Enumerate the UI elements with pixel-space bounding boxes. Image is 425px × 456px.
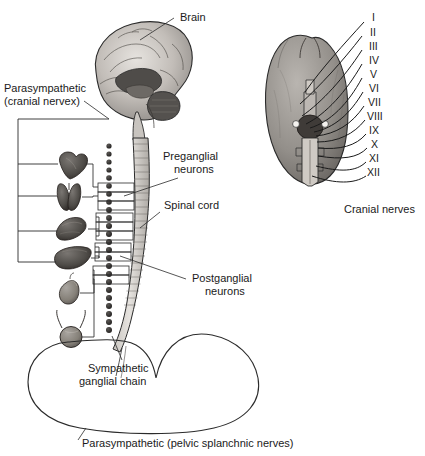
label-cranial-nerves-caption: Cranial nerves [344,203,415,216]
label-parasympathetic-pelvic: Parasympathetic (pelvic splanchnic nerve… [82,437,294,450]
label-sympathetic-chain-line1: Sympathetic [88,362,149,375]
organ-kidney [59,273,79,304]
organ-stomach [56,217,86,240]
label-parasympathetic-cranial-line1: Parasympathetic [4,82,86,95]
label-spinal-cord: Spinal cord [164,199,219,212]
organ-liver [55,247,92,269]
organ-lungs [57,183,81,210]
sagittal-brain-illustration [95,22,192,140]
cranial-numeral-2: II [370,27,376,38]
cranial-numeral-1: I [372,12,375,23]
cranial-numeral-8: VIII [367,111,383,122]
cranial-numeral-12: XII [367,167,380,178]
label-preganglial-line1: Preganglial [163,150,218,163]
label-postganglial-line2: neurons [205,285,245,298]
label-parasympathetic-cranial-line2: (cranial nervex) [4,95,80,108]
cranial-numeral-5: V [370,69,377,80]
label-sympathetic-chain-line2: ganglial chain [79,375,146,388]
label-preganglial-line2: neurons [174,163,214,176]
cranial-numeral-11: XI [369,153,379,164]
label-postganglial-line1: Postganglial [192,272,252,285]
ventral-brain-illustration [266,35,349,186]
organ-heart [59,152,87,179]
diagram-canvas [0,0,425,456]
cranial-numeral-7: VII [368,97,381,108]
label-brain: Brain [180,11,206,24]
cranial-numeral-6: VI [369,83,379,94]
sympathetic-ganglial-chain [106,143,112,333]
anatomy-figure: Brain Parasympathetic (cranial nervex) P… [0,0,425,456]
cranial-numeral-9: IX [369,125,379,136]
cranial-numeral-4: IV [369,55,379,66]
cranial-numeral-3: III [369,41,378,52]
cranial-numeral-10: X [371,139,378,150]
